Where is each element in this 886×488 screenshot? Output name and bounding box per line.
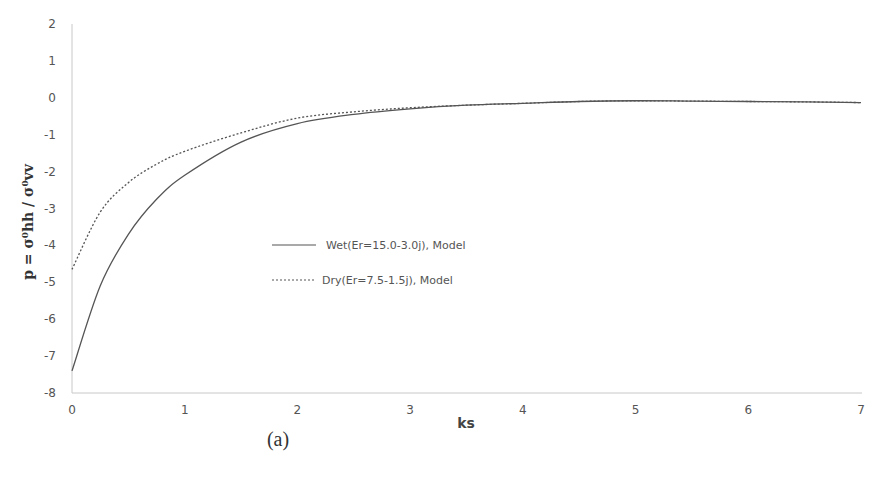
- x-tick-label: 4: [519, 403, 527, 417]
- y-tick-label: -1: [44, 128, 56, 142]
- x-tick-label: 6: [744, 403, 752, 417]
- caption-text: (a): [267, 428, 289, 450]
- y-axis-title: p = σ⁰hh / σ⁰vv: [20, 163, 36, 280]
- y-tick-label: 2: [48, 17, 56, 31]
- legend-dry-label: Dry(Er=7.5-1.5j), Model: [322, 274, 453, 287]
- legend: Wet(Er=15.0-3.0j), Model Dry(Er=7.5-1.5j…: [272, 239, 466, 287]
- x-tick-label: 3: [406, 403, 414, 417]
- x-tick-label: 0: [68, 403, 76, 417]
- wet-series-line: [72, 101, 861, 371]
- x-tick-label: 2: [294, 403, 302, 417]
- dry-series-line: [72, 101, 861, 270]
- y-tick-label: -8: [44, 386, 56, 400]
- y-tick-label: -3: [44, 202, 56, 216]
- y-tick-label: -6: [44, 312, 56, 326]
- x-tick-label: 5: [632, 403, 640, 417]
- x-tick-label: 1: [181, 403, 189, 417]
- y-tick-label: -7: [44, 349, 56, 363]
- series-lines: [72, 101, 861, 371]
- y-tick-label: 0: [48, 91, 56, 105]
- line-chart: 210-1-2-3-4-5-6-7-8 01234567 ks p = σ⁰hh…: [0, 0, 886, 488]
- y-tick-label: -2: [44, 165, 56, 179]
- y-tick-label: -4: [44, 238, 56, 252]
- legend-wet-label: Wet(Er=15.0-3.0j), Model: [326, 239, 466, 252]
- y-tick-label: 1: [48, 54, 56, 68]
- figure-caption: (a): [0, 428, 886, 451]
- y-tick-label: -5: [44, 275, 56, 289]
- x-tick-label: 7: [857, 403, 865, 417]
- y-tick-labels: 210-1-2-3-4-5-6-7-8: [44, 17, 56, 400]
- axes: [72, 24, 862, 393]
